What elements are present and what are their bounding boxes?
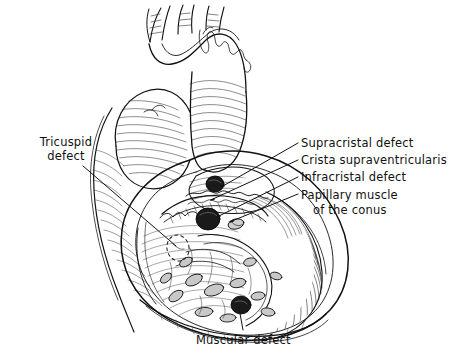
label-papillary-line2: of the conus — [301, 203, 398, 218]
infracristal-defect-hole — [196, 208, 220, 230]
supracristal-defect-hole — [206, 176, 224, 192]
label-papillary-muscle-of-conus: Papillary muscleof the conus — [301, 188, 398, 217]
muscular-defect-hole — [231, 296, 251, 314]
label-muscular-defect: Muscular defect — [196, 334, 291, 348]
label-tricuspid-defect: Tricuspiddefect — [14, 136, 118, 163]
label-supracristal-defect: Supracristal defect — [301, 137, 413, 151]
label-tricuspid-line1: Tricuspid — [40, 135, 92, 149]
label-infracristal-defect: Infracristal defect — [301, 171, 406, 185]
label-tricuspid-line2: defect — [47, 149, 85, 163]
heart-vsd-illustration: Tricuspiddefect Supracristal defect Cris… — [0, 0, 469, 354]
label-crista-supraventricularis: Crista supraventricularis — [301, 154, 447, 168]
label-papillary-line1: Papillary muscle — [301, 188, 398, 202]
